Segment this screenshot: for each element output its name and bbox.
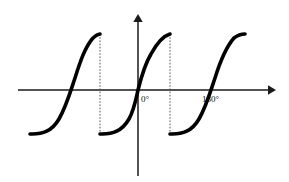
vertical-axis-arrow-icon <box>133 14 142 22</box>
waveform-figure: 0° 180° <box>0 0 289 182</box>
waveform-segment-1 <box>30 34 100 134</box>
dashed-drop-lines <box>100 34 170 134</box>
tick-label-0-degrees: 0° <box>141 95 149 104</box>
waveform-segment-2 <box>100 34 170 134</box>
waveform-segment-3 <box>170 34 245 134</box>
waveform-plot <box>0 0 289 182</box>
horizontal-axis-arrow-icon <box>268 85 276 95</box>
tick-label-180-degrees: 180° <box>202 95 219 104</box>
